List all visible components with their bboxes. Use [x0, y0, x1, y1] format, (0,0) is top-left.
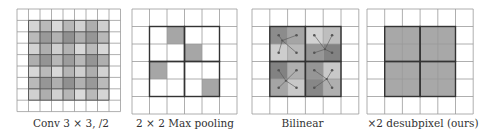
bilinear-grid-diagram — [245, 0, 365, 115]
caption-maxpool: 2 × 2 Max pooling — [125, 117, 245, 129]
caption-conv: Conv 3 × 3, /2 — [22, 117, 120, 129]
panel-maxpool: 2 × 2 Max pooling — [125, 0, 245, 136]
maxpool-grid-diagram — [125, 0, 245, 115]
caption-desubpixel: ×2 desubpixel (ours) — [362, 117, 484, 129]
conv-grid-diagram — [0, 0, 125, 115]
caption-bilinear: Bilinear — [245, 117, 360, 129]
panel-desubpixel: ×2 desubpixel (ours) — [362, 0, 492, 136]
desubpixel-grid-diagram — [362, 0, 492, 115]
panel-conv: Conv 3 × 3, /2 — [0, 0, 125, 136]
panel-bilinear: Bilinear — [245, 0, 365, 136]
